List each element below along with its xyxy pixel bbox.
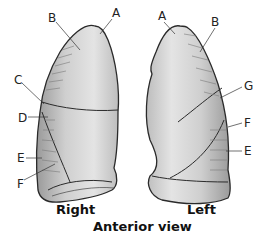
label-f-right: F [17,178,24,190]
label-e-left: E [244,145,252,157]
caption-left: Left [187,202,216,217]
caption-right: Right [56,202,95,217]
left-lung [146,26,230,204]
lungs-illustration [0,0,266,236]
label-b-right: B [48,12,56,24]
label-e-right: E [17,152,25,164]
right-lung-shape [37,25,119,202]
view-title: Anterior view [93,219,192,234]
label-a-left: A [158,10,166,22]
label-f-left: F [244,117,251,129]
label-b-left: B [211,16,219,28]
label-a-right: A [112,7,120,19]
label-c-right: C [14,74,22,86]
right-lung [37,25,119,202]
label-d-right: D [18,112,27,124]
label-g-left: G [244,80,253,92]
